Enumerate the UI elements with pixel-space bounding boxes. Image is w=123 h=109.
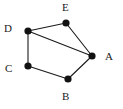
edge-layer (28, 23, 92, 79)
node-label-d: D (4, 23, 12, 34)
graph-node-e (62, 19, 69, 26)
graph-node-d (24, 27, 31, 34)
graph-edge-b-a (68, 56, 92, 79)
graph-edge-c-b (28, 66, 68, 79)
node-label-b: B (62, 91, 69, 102)
node-layer (24, 19, 95, 82)
graph-edge-d-e (28, 23, 66, 31)
graph-node-a (88, 52, 95, 59)
node-label-e: E (62, 2, 69, 13)
node-label-a: A (105, 51, 113, 62)
graph-node-b (64, 75, 71, 82)
graph-figure: ABCDE (0, 0, 123, 109)
node-label-c: C (5, 63, 12, 74)
graph-node-c (24, 62, 31, 69)
